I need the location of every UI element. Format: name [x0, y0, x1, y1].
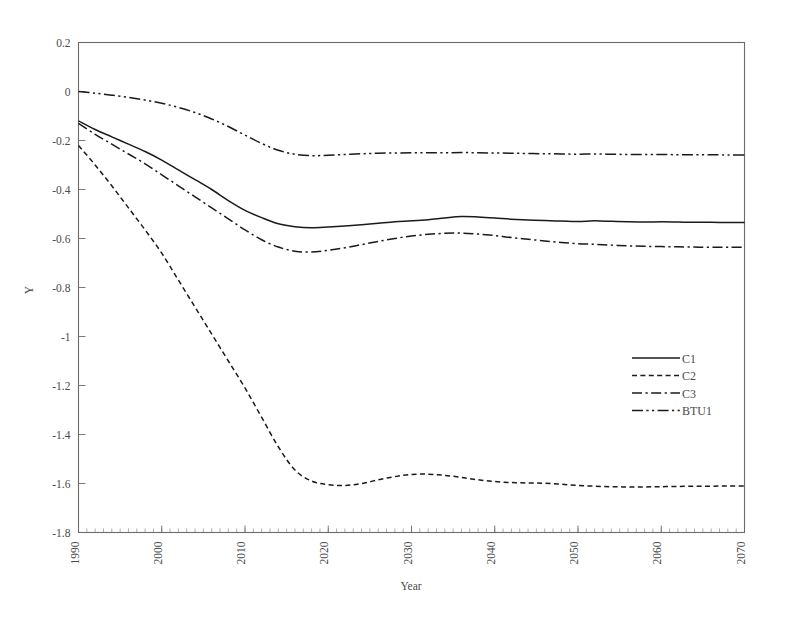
- x-tick-label: 2070: [735, 541, 747, 564]
- legend-label-btu1: BTU1: [682, 404, 712, 418]
- y-tick-label: -1.6: [52, 478, 70, 490]
- y-tick-label: -1.8: [52, 527, 70, 539]
- legend-label-c3: C3: [682, 387, 696, 401]
- x-tick-label: 2040: [485, 541, 497, 564]
- legend-label-c1: C1: [682, 352, 696, 366]
- y-axis-title: Y: [23, 285, 35, 294]
- x-tick-label: 2000: [152, 541, 164, 564]
- chart-figure: 199020002010202020302040205020602070 0.2…: [0, 0, 785, 620]
- y-tick-label: -0.6: [52, 233, 70, 245]
- chart-legend: C1C2C3BTU1: [627, 345, 737, 423]
- y-tick-label: -0.2: [52, 135, 70, 147]
- x-tick-label: 2030: [402, 541, 414, 564]
- y-tick-label: 0: [65, 86, 71, 98]
- y-tick-label: -1: [61, 331, 71, 343]
- legend-label-c2: C2: [682, 369, 696, 383]
- y-tick-label: -0.4: [52, 184, 70, 196]
- chart-svg: 199020002010202020302040205020602070 0.2…: [0, 0, 785, 620]
- y-tick-label: -1.2: [52, 380, 70, 392]
- x-tick-label: 2050: [568, 541, 580, 564]
- figure-background: [0, 0, 785, 620]
- x-tick-label: 2010: [235, 541, 247, 564]
- x-tick-label: 1990: [69, 541, 81, 564]
- y-tick-label: -1.4: [52, 429, 70, 441]
- y-tick-label: -0.8: [52, 282, 70, 294]
- y-tick-label: 0.2: [56, 37, 71, 49]
- x-axis-title: Year: [400, 580, 421, 592]
- x-tick-label: 2060: [651, 541, 663, 564]
- x-tick-label: 2020: [318, 541, 330, 564]
